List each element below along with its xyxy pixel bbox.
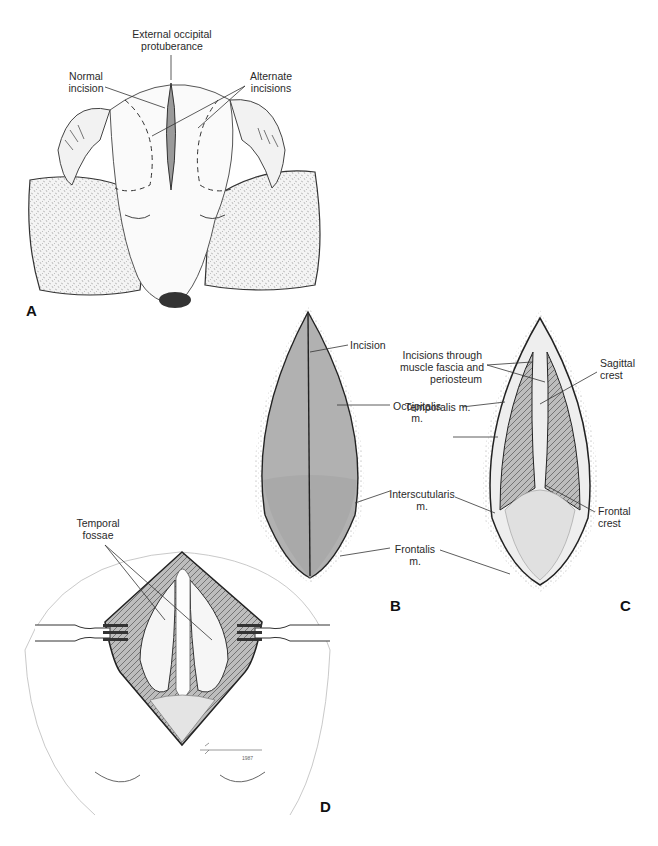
- label-line: m.: [384, 500, 460, 512]
- label-line: incisions: [244, 82, 298, 94]
- label-line: fossae: [68, 529, 128, 541]
- label-alternate-incisions: Alternate incisions: [244, 70, 298, 94]
- panel-letter-d: D: [320, 798, 331, 815]
- label-line: periosteum: [400, 373, 482, 385]
- label-line: muscle fascia and: [400, 361, 482, 373]
- label-interscutularis-m: Interscutularis m.: [384, 488, 460, 512]
- label-line: protuberance: [128, 40, 216, 52]
- panel-letter-c: C: [620, 597, 631, 614]
- label-line: Interscutularis: [384, 488, 460, 500]
- label-frontal-crest: Frontal crest: [598, 505, 631, 529]
- label-line: crest: [600, 369, 635, 381]
- label-frontalis-m: Frontalis m.: [390, 543, 440, 567]
- label-line: Temporal: [68, 517, 128, 529]
- label-line: m.: [390, 555, 440, 567]
- panel-d-drawing: [25, 545, 330, 815]
- label-line: Frontal: [598, 505, 631, 517]
- label-temporalis-m: Temporalis m.: [405, 401, 470, 413]
- panel-letter-b: B: [390, 597, 401, 614]
- label-incisions-through-fascia: Incisions through muscle fascia and peri…: [400, 349, 482, 385]
- label-incision: Incision: [350, 339, 386, 351]
- label-line: crest: [598, 517, 631, 529]
- label-temporal-fossae: Temporal fossae: [68, 517, 128, 541]
- label-line: Incisions through: [400, 349, 482, 361]
- panel-letter-a: A: [26, 302, 37, 319]
- label-normal-incision: Normal incision: [62, 70, 110, 94]
- label-line: Normal: [62, 70, 110, 82]
- label-line: Frontalis: [390, 543, 440, 555]
- artist-signature-year: 1987: [242, 752, 253, 764]
- label-line: Sagittal: [600, 357, 635, 369]
- label-line: Alternate: [244, 70, 298, 82]
- label-line: incision: [62, 82, 110, 94]
- label-sagittal-crest: Sagittal crest: [600, 357, 635, 381]
- illustration-artwork: [0, 0, 658, 846]
- label-external-occipital-protuberance: External occipital protuberance: [128, 28, 216, 52]
- label-line: m.: [388, 412, 446, 424]
- label-line: External occipital: [128, 28, 216, 40]
